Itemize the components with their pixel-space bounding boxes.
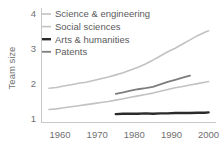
y-tick-label: 3 [31,43,36,54]
chart-container: Team size 1234 19601970198019902000 Scie… [0,0,220,148]
legend-item-label[interactable]: Social sciences [55,21,121,32]
y-tick-label: 4 [31,8,36,19]
legend-item-label[interactable]: Arts & humanities [55,34,130,45]
x-tick-label: 2000 [198,129,219,140]
line-chart: Team size 1234 19601970198019902000 Scie… [0,0,220,148]
y-tick-label: 1 [31,113,36,124]
x-tick-label: 1980 [124,129,145,140]
y-axis-title: Team size [6,47,17,90]
x-tick-label: 1970 [87,129,108,140]
x-tick-label: 1990 [161,129,182,140]
legend-item-label[interactable]: Science & engineering [55,8,150,19]
series-line-arts-humanities [116,112,209,114]
y-tick-label: 2 [31,78,36,89]
legend-item-label[interactable]: Patents [55,46,87,57]
x-tick-label: 1960 [49,129,70,140]
